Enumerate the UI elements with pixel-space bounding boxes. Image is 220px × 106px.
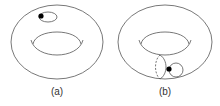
torus-a	[11, 5, 103, 79]
torus-a-hole-upper	[33, 32, 81, 44]
base-point-a	[38, 13, 43, 18]
torus-b-meridian-back	[156, 55, 161, 79]
panel-label-b: (b)	[150, 86, 180, 97]
torus-b-hole-upper	[141, 32, 189, 44]
torus-figure	[0, 0, 220, 106]
torus-b-meridian-front	[160, 55, 166, 79]
torus-b-outline	[118, 5, 212, 79]
base-point-b	[166, 66, 171, 71]
panel-label-a: (a)	[42, 86, 72, 97]
torus-b	[118, 5, 212, 79]
torus-b-hole-lower	[139, 40, 191, 55]
torus-a-hole-lower	[31, 40, 83, 55]
